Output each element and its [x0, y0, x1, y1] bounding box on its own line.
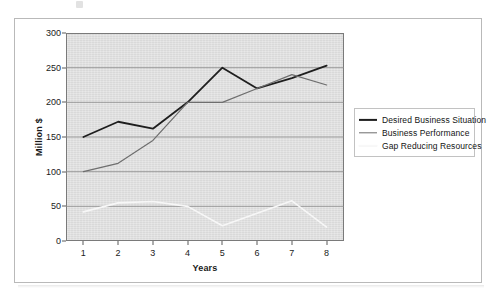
x-axis-tick-mark [326, 241, 327, 245]
legend-line-icon [358, 128, 378, 137]
x-axis-tick-label: 7 [289, 248, 294, 258]
frame-shadow [18, 285, 484, 288]
chart-figure: 050100150200250300 12345678 Million $ Ye… [0, 0, 498, 301]
legend-item-label: Desired Business Situation [382, 115, 486, 125]
x-axis-label: Years [192, 263, 217, 273]
legend-item: Business Performance [358, 126, 470, 139]
x-axis-tick-label: 6 [255, 248, 260, 258]
x-axis-tick-label: 2 [116, 248, 121, 258]
x-axis-tick-label: 5 [220, 248, 225, 258]
legend-line-icon [358, 141, 378, 150]
y-axis-tick-mark [62, 67, 66, 68]
x-axis-tick-label: 4 [185, 248, 190, 258]
plot-area-wrapper: 050100150200250300 12345678 Million $ Ye… [66, 33, 344, 241]
y-axis-label: Million $ [34, 118, 44, 156]
y-axis-tick-label: 300 [46, 28, 61, 38]
scan-artifact [76, 1, 83, 8]
y-axis-tick-mark [62, 171, 66, 172]
x-axis-tick-mark [257, 241, 258, 245]
y-axis-tick-mark [62, 102, 66, 103]
y-axis-tick-label: 250 [46, 63, 61, 73]
legend-item-label: Business Performance [382, 128, 470, 138]
y-axis-tick-mark [62, 137, 66, 138]
y-axis-tick-mark [62, 206, 66, 207]
x-axis-tick-label: 1 [81, 248, 86, 258]
legend-item: Gap Reducing Resources [358, 139, 470, 152]
y-axis-tick-mark [62, 33, 66, 34]
legend-item-label: Gap Reducing Resources [382, 141, 482, 151]
x-axis-tick-mark [83, 241, 84, 245]
x-axis-tick-mark [291, 241, 292, 245]
chart-legend: Desired Business Situation Business Perf… [354, 108, 475, 157]
y-axis-tick-label: 50 [51, 201, 61, 211]
x-axis-tick-label: 3 [150, 248, 155, 258]
y-axis-tick-mark [62, 241, 66, 242]
legend-item: Desired Business Situation [358, 113, 470, 126]
x-axis-tick-mark [187, 241, 188, 245]
x-axis-tick-label: 8 [324, 248, 329, 258]
y-axis-tick-label: 0 [56, 236, 61, 246]
y-axis-tick-label: 200 [46, 97, 61, 107]
x-axis-tick-mark [222, 241, 223, 245]
series-lines [66, 33, 344, 241]
legend-line-icon [358, 115, 378, 124]
x-axis-tick-mark [118, 241, 119, 245]
y-axis-tick-label: 150 [46, 132, 61, 142]
y-axis-tick-label: 100 [46, 167, 61, 177]
x-axis-tick-mark [152, 241, 153, 245]
